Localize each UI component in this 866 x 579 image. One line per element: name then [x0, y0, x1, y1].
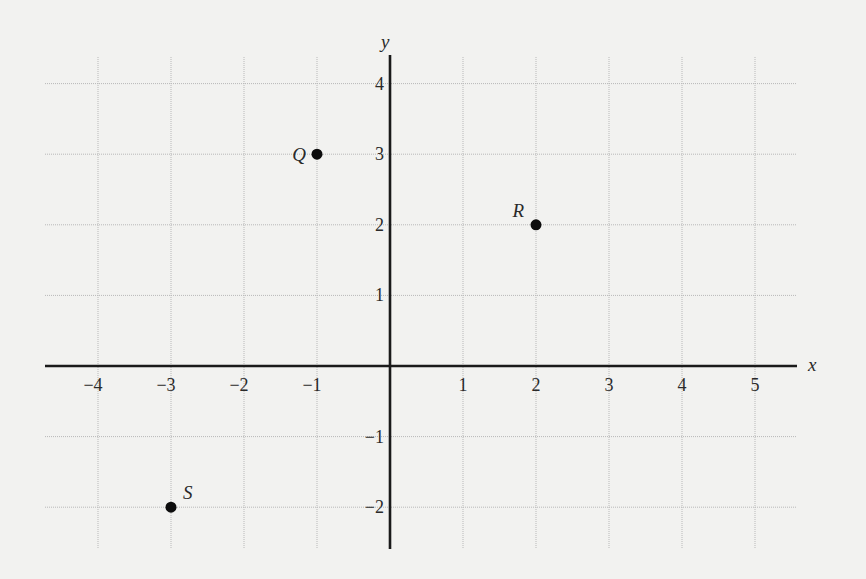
x-tick-label: 5: [751, 375, 760, 395]
x-tick-label: 4: [678, 375, 687, 395]
grid-lines: [45, 57, 797, 548]
x-tick-label: −3: [156, 375, 175, 395]
point-label: R: [511, 200, 524, 221]
y-tick-label: −2: [365, 497, 384, 517]
point-label: Q: [292, 144, 306, 165]
y-tick-label: 1: [375, 285, 384, 305]
y-tick-label: 4: [375, 74, 384, 94]
point-label: S: [183, 482, 193, 503]
point-marker: [531, 219, 542, 230]
y-tick-label: −1: [365, 427, 384, 447]
axes: x y: [45, 31, 817, 549]
x-tick-label: −1: [302, 375, 321, 395]
coordinate-plane: x y −4−3−2−1123454321−1−2 QRS: [0, 0, 866, 579]
y-tick-label: 3: [375, 144, 384, 164]
x-tick-label: 3: [605, 375, 614, 395]
point-s: S: [166, 482, 194, 513]
point-marker: [166, 502, 177, 513]
x-axis-label: x: [807, 354, 817, 375]
data-points: QRS: [166, 144, 542, 513]
x-tick-label: 1: [459, 375, 468, 395]
point-marker: [312, 149, 323, 160]
x-tick-label: −2: [229, 375, 248, 395]
x-tick-label: 2: [532, 375, 541, 395]
point-r: R: [511, 200, 541, 231]
x-tick-label: −4: [83, 375, 102, 395]
y-tick-label: 2: [375, 215, 384, 235]
y-axis-label: y: [379, 31, 390, 52]
